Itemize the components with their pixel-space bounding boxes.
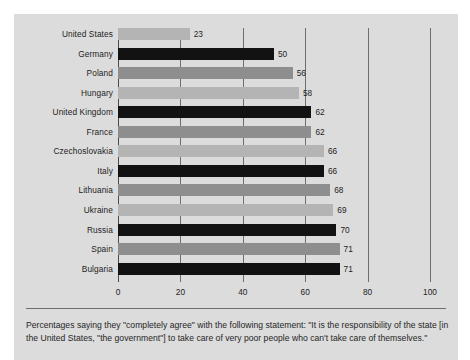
bar-value-label: 71: [344, 243, 353, 255]
bar-value-label: 69: [337, 204, 346, 216]
bar: [118, 67, 293, 79]
category-label: Bulgaria: [14, 263, 113, 275]
bar-value-label: 66: [328, 165, 337, 177]
bar-value-label: 68: [334, 184, 343, 196]
x-tick-label: 60: [285, 287, 325, 297]
bar-value-label: 71: [344, 263, 353, 275]
gridline: [368, 28, 369, 282]
bar-value-label: 70: [340, 224, 349, 236]
figure-panel: United StatesGermanyPolandHungaryUnited …: [14, 14, 458, 360]
bar: [118, 263, 340, 275]
category-label: Ukraine: [14, 204, 113, 216]
bar-value-label: 58: [303, 87, 312, 99]
category-label: Germany: [14, 48, 113, 60]
bar: [118, 145, 324, 157]
bar: [118, 224, 336, 236]
category-label: Italy: [14, 165, 113, 177]
bar-value-label: 62: [315, 106, 324, 118]
category-label: Hungary: [14, 87, 113, 99]
bar: [118, 126, 311, 138]
category-label: Czechoslovakia: [14, 145, 113, 157]
x-tick-label: 100: [410, 287, 450, 297]
bar: [118, 165, 324, 177]
x-tick-label: 0: [98, 287, 138, 297]
bar: [118, 106, 311, 118]
bar-value-label: 23: [194, 28, 203, 40]
bar-value-label: 62: [315, 126, 324, 138]
bar: [118, 48, 274, 60]
category-label: France: [14, 126, 113, 138]
chart-plot-area: United StatesGermanyPolandHungaryUnited …: [14, 14, 458, 309]
category-label: Lithuania: [14, 184, 113, 196]
category-label: United States: [14, 28, 113, 40]
bar: [118, 184, 330, 196]
gridline: [430, 28, 431, 282]
caption-divider: [26, 308, 446, 309]
category-label: Russia: [14, 224, 113, 236]
bar-value-label: 50: [278, 48, 287, 60]
category-label: Poland: [14, 67, 113, 79]
bar: [118, 87, 299, 99]
figure-caption: Percentages saying they "completely agre…: [26, 319, 450, 344]
x-tick-label: 80: [348, 287, 388, 297]
bar-value-label: 56: [297, 67, 306, 79]
bar: [118, 28, 190, 40]
bar: [118, 243, 340, 255]
bar-value-label: 66: [328, 145, 337, 157]
category-label: Spain: [14, 243, 113, 255]
category-label: United Kingdom: [14, 106, 113, 118]
bar: [118, 204, 333, 216]
x-tick-label: 40: [223, 287, 263, 297]
x-tick-label: 20: [160, 287, 200, 297]
